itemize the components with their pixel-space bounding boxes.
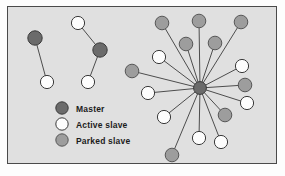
active-slave-node[interactable]	[71, 16, 84, 29]
piconet-link	[148, 88, 200, 93]
piconet-link	[199, 21, 200, 88]
legend-item-label: Active slave	[76, 121, 128, 130]
active-slave-node[interactable]	[192, 131, 205, 144]
master-node[interactable]	[28, 31, 42, 45]
master-node[interactable]	[93, 43, 107, 57]
parked-slave-node[interactable]	[165, 148, 179, 162]
parked-slave-node[interactable]	[218, 108, 232, 122]
active-slave-node[interactable]	[214, 135, 227, 148]
active-slave-node[interactable]	[40, 75, 53, 88]
diagram-canvas	[0, 0, 285, 176]
parked-slave-node[interactable]	[238, 78, 252, 92]
piconet-link	[162, 23, 200, 88]
active-slave-node[interactable]	[152, 50, 165, 63]
active-slave-node[interactable]	[157, 110, 170, 123]
active-slave-node[interactable]	[141, 86, 154, 99]
legend-item-label: Parked slave	[76, 137, 130, 146]
parked-slave-node[interactable]	[192, 14, 206, 28]
piconet-link	[172, 88, 200, 155]
master-node[interactable]	[194, 82, 207, 95]
master-swatch-icon	[56, 102, 68, 114]
active-slave-node[interactable]	[240, 96, 253, 109]
parked-slave-node[interactable]	[125, 64, 139, 78]
figure-container: MasterActive slaveParked slave	[0, 0, 285, 176]
parked-slave-node[interactable]	[155, 16, 169, 30]
parked-slave-node[interactable]	[234, 15, 248, 29]
piconet-link	[199, 88, 200, 138]
parked-slave-swatch-icon	[56, 134, 68, 146]
active-slave-swatch-icon	[56, 118, 68, 130]
piconet-link	[200, 22, 241, 88]
parked-slave-node[interactable]	[208, 36, 222, 50]
active-slave-node[interactable]	[81, 75, 94, 88]
legend-swatches-layer	[56, 102, 68, 146]
active-slave-node[interactable]	[235, 59, 248, 72]
parked-slave-node[interactable]	[179, 37, 193, 51]
piconet-link	[132, 71, 200, 88]
legend-item-label: Master	[76, 105, 105, 114]
